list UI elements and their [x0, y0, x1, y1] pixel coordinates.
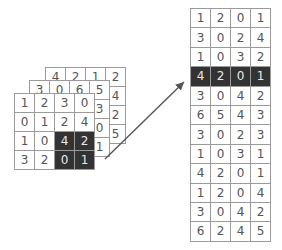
- table-cell: 0: [211, 202, 231, 221]
- table-cell: 1: [251, 144, 271, 163]
- highlighted-cell: 0: [55, 151, 75, 170]
- table-cell: 0: [231, 183, 251, 202]
- table-cell: 0: [231, 67, 251, 86]
- table-cell: 4: [231, 202, 251, 221]
- table-cell: 3: [191, 28, 211, 47]
- grid-cell: 1: [35, 113, 55, 132]
- table-row: 6245: [191, 222, 271, 241]
- table-row: 1032: [191, 47, 271, 66]
- highlighted-row: 4201: [191, 67, 271, 86]
- table-cell: 2: [211, 9, 231, 28]
- grid-row: 0 1 2 4: [15, 113, 95, 132]
- grid-row: 1 0 4 2: [15, 132, 95, 151]
- grid-cell: 3: [15, 151, 35, 170]
- table-cell: 1: [191, 9, 211, 28]
- grid-cell: 0: [35, 132, 55, 151]
- table-cell: 3: [231, 47, 251, 66]
- table-cell: 0: [211, 28, 231, 47]
- grid-cell: 0: [75, 94, 95, 113]
- table-cell: 0: [211, 144, 231, 163]
- grid-cell: 1: [15, 132, 35, 151]
- table-row: 3024: [191, 28, 271, 47]
- grid-cell: 0: [15, 113, 35, 132]
- table-row: 1031: [191, 144, 271, 163]
- table-cell: 4: [251, 28, 271, 47]
- table-row: 4201: [191, 164, 271, 183]
- table-cell: 4: [231, 86, 251, 105]
- table-cell: 1: [191, 144, 211, 163]
- table-cell: 1: [191, 183, 211, 202]
- table-cell: 3: [191, 125, 211, 144]
- table-cell: 3: [231, 144, 251, 163]
- table-cell: 2: [251, 47, 271, 66]
- table-cell: 3: [191, 86, 211, 105]
- grid-cell: 1: [15, 94, 35, 113]
- table-cell: 2: [211, 67, 231, 86]
- table-row: 3042: [191, 202, 271, 221]
- table-row: 3023: [191, 125, 271, 144]
- table-cell: 1: [251, 9, 271, 28]
- table-cell: 2: [251, 86, 271, 105]
- table-row: 1201: [191, 9, 271, 28]
- table-cell: 2: [211, 222, 231, 241]
- grid-row: 1 2 3 0: [15, 94, 95, 113]
- table-cell: 2: [231, 125, 251, 144]
- table-cell: 4: [191, 164, 211, 183]
- table-row: 6543: [191, 105, 271, 124]
- highlighted-cell: 4: [55, 132, 75, 151]
- grid-cell: 3: [55, 94, 75, 113]
- highlighted-cell: 1: [75, 151, 95, 170]
- table-cell: 4: [231, 222, 251, 241]
- table-cell: 3: [251, 125, 271, 144]
- table-cell: 0: [211, 86, 231, 105]
- table-row: 3042: [191, 86, 271, 105]
- table-cell: 4: [191, 67, 211, 86]
- table-cell: 3: [191, 202, 211, 221]
- grid-cell: 4: [75, 113, 95, 132]
- grid-cell: 2: [35, 151, 55, 170]
- output-table: 1201302410324201304265433023103142011204…: [190, 8, 271, 242]
- grid-row: 3 2 0 1: [15, 151, 95, 170]
- table-cell: 2: [231, 28, 251, 47]
- table-cell: 6: [191, 105, 211, 124]
- table-cell: 2: [211, 183, 231, 202]
- table-cell: 1: [191, 47, 211, 66]
- table-cell: 0: [231, 164, 251, 183]
- table-cell: 5: [211, 105, 231, 124]
- table-cell: 0: [211, 125, 231, 144]
- table-cell: 2: [251, 202, 271, 221]
- highlighted-cell: 2: [75, 132, 95, 151]
- table-cell: 5: [251, 222, 271, 241]
- table-cell: 1: [251, 164, 271, 183]
- table-cell: 4: [231, 105, 251, 124]
- table-cell: 4: [251, 183, 271, 202]
- table-row: 1204: [191, 183, 271, 202]
- table-cell: 3: [251, 105, 271, 124]
- table-cell: 6: [191, 222, 211, 241]
- table-cell: 2: [211, 164, 231, 183]
- front-channel-grid: 1 2 3 0 0 1 2 4 1 0 4 2 3 2 0 1: [14, 93, 95, 170]
- grid-cell: 2: [55, 113, 75, 132]
- table-cell: 0: [231, 9, 251, 28]
- table-cell: 0: [211, 47, 231, 66]
- table-cell: 1: [251, 67, 271, 86]
- grid-cell: 2: [35, 94, 55, 113]
